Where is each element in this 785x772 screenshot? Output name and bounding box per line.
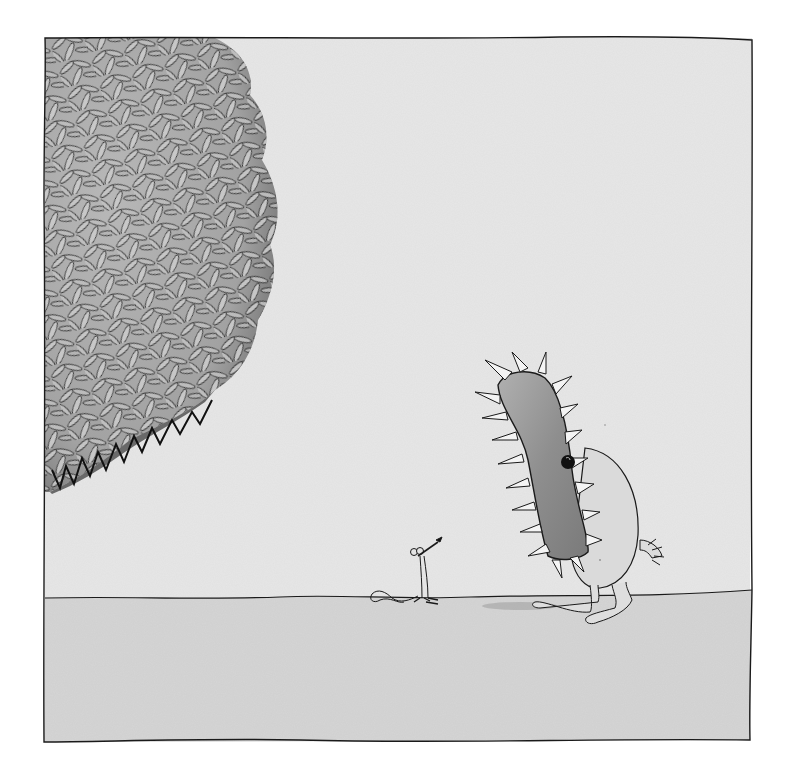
illustration: [0, 0, 785, 772]
ground: [44, 590, 752, 742]
